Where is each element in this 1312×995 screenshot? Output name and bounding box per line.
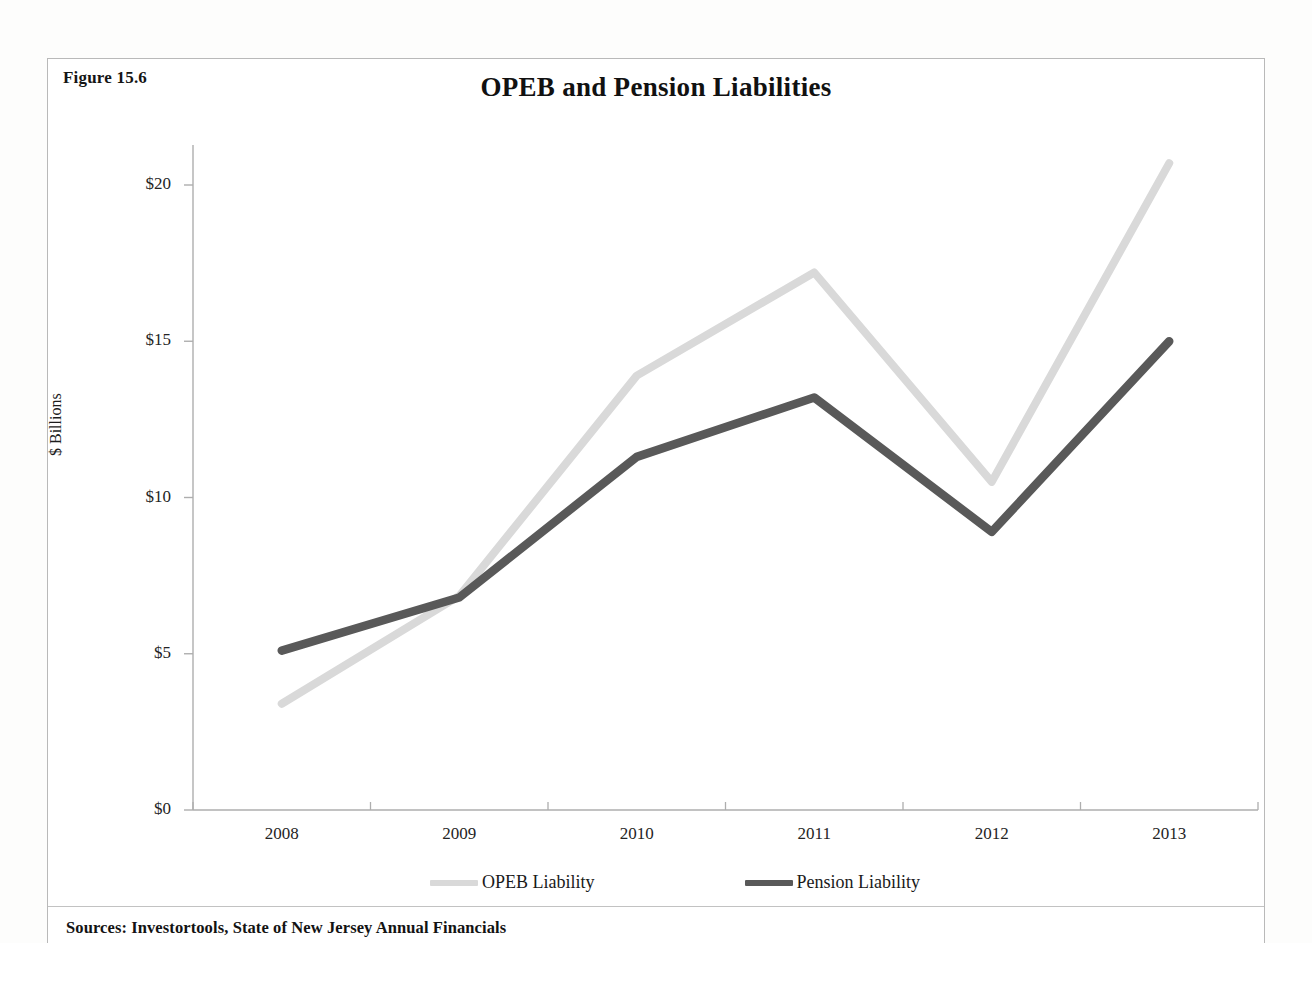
source-divider xyxy=(48,906,1264,907)
x-tick-label: 2010 xyxy=(577,824,697,844)
legend-swatch-pension xyxy=(745,880,793,886)
x-tick-label: 2013 xyxy=(1109,824,1229,844)
y-tick-label: $10 xyxy=(101,487,171,507)
y-tick-label: $15 xyxy=(101,330,171,350)
chart-title: OPEB and Pension Liabilities xyxy=(47,72,1265,103)
legend-item-opeb: OPEB Liability xyxy=(430,872,595,893)
x-tick-label: 2011 xyxy=(754,824,874,844)
figure-frame xyxy=(47,58,1265,945)
x-tick-label: 2009 xyxy=(399,824,519,844)
x-tick-label: 2008 xyxy=(222,824,342,844)
source-note: Sources: Investortools, State of New Jer… xyxy=(66,918,506,938)
legend-label-opeb: OPEB Liability xyxy=(482,872,595,893)
y-tick-label: $0 xyxy=(101,799,171,819)
x-tick-label: 2012 xyxy=(932,824,1052,844)
y-tick-label: $5 xyxy=(101,643,171,663)
legend-label-pension: Pension Liability xyxy=(797,872,921,893)
y-axis-title: $ Billions xyxy=(47,336,65,456)
legend-item-pension: Pension Liability xyxy=(745,872,921,893)
legend-swatch-opeb xyxy=(430,880,478,886)
chart-legend: OPEB Liability Pension Liability xyxy=(430,872,1070,893)
y-tick-label: $20 xyxy=(101,174,171,194)
page-bottom-margin xyxy=(0,943,1312,995)
